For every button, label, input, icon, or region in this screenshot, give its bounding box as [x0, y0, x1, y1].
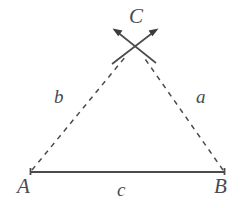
side-a-dashed-line	[143, 56, 223, 170]
vertex-label-b: B	[214, 176, 227, 197]
vertex-label-c: C	[129, 6, 143, 27]
triangle-construction-diagram	[0, 0, 249, 208]
side-label-c: c	[117, 180, 125, 199]
construction-arc-from-a	[112, 31, 155, 64]
side-b-dashed-line	[32, 56, 126, 170]
vertex-label-a: A	[17, 176, 30, 197]
side-label-a: a	[196, 87, 206, 106]
geometry-figure: A B C a b c	[0, 0, 249, 208]
side-label-b: b	[54, 87, 64, 106]
